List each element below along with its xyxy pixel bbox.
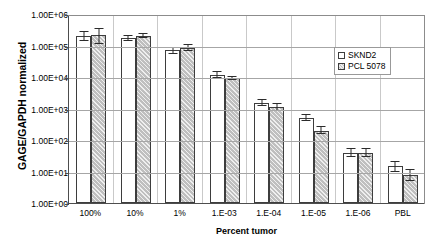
error-bar-cap-top — [406, 169, 415, 170]
error-bar-cap-top — [183, 44, 192, 45]
error-bar — [98, 29, 99, 44]
gridline — [69, 78, 425, 79]
x-axis-title: Percent tumor — [68, 226, 425, 236]
y-axis-tick — [65, 141, 69, 142]
bar-sknd2[interactable] — [76, 36, 91, 203]
x-axis-tick-label: PBL — [380, 208, 425, 224]
error-bar-cap-bottom — [228, 79, 237, 80]
error-bar-cap-top — [272, 103, 281, 104]
error-bar-cap-bottom — [406, 180, 415, 181]
y-axis-tick-label: 1.00E+02 — [20, 136, 68, 146]
y-axis-tick — [65, 204, 69, 205]
error-bar-cap-bottom — [257, 105, 266, 106]
x-axis-tick-label: 1.E-03 — [202, 208, 247, 224]
plot-frame-right — [424, 15, 425, 204]
x-axis-tick-label: 10% — [113, 208, 158, 224]
y-axis-tick — [65, 110, 69, 111]
error-bar-cap-bottom — [183, 50, 192, 51]
legend-label-sknd2: SKND2 — [348, 50, 376, 61]
y-axis-tick — [65, 173, 69, 174]
bar-sknd2[interactable] — [165, 50, 180, 203]
legend-swatch-icon-sknd2 — [338, 52, 345, 59]
error-bar-cap-top — [257, 99, 266, 100]
x-axis-tick-label: 1.E-06 — [336, 208, 381, 224]
x-axis-tick-label: 1% — [157, 208, 202, 224]
error-bar-cap-top — [139, 33, 148, 34]
y-axis-tick — [65, 47, 69, 48]
error-bar-cap-top — [317, 126, 326, 127]
y-axis-tick-label: 1.00E+04 — [20, 73, 68, 83]
error-bar-cap-bottom — [79, 40, 88, 41]
bar-sknd2[interactable] — [254, 103, 269, 203]
error-bar-cap-bottom — [317, 133, 326, 134]
error-bar-cap-bottom — [302, 120, 311, 121]
error-bar-cap-top — [79, 31, 88, 32]
legend-item-pcl5078: PCL 5078 — [338, 61, 386, 72]
bar-sknd2[interactable] — [210, 75, 225, 203]
error-bar-cap-top — [391, 161, 400, 162]
y-axis-tick-label: 1.00E+03 — [20, 105, 68, 115]
y-axis-tick-label: 1.00E+01 — [20, 168, 68, 178]
error-bar-cap-bottom — [139, 37, 148, 38]
bar-pcl-5078[interactable] — [180, 48, 195, 203]
bar-pcl-5078[interactable] — [358, 153, 373, 203]
error-bar-cap-bottom — [124, 40, 133, 41]
gridline — [69, 173, 425, 174]
y-axis-tick-label: 1.00E+06 — [20, 10, 68, 20]
bar-sknd2[interactable] — [299, 118, 314, 203]
error-bar-cap-top — [124, 35, 133, 36]
bar-pcl-5078[interactable] — [136, 36, 151, 203]
gridline — [69, 110, 425, 111]
legend-swatch-icon-pcl5078 — [338, 63, 345, 70]
error-bar-cap-bottom — [346, 156, 355, 157]
error-bar-cap-top — [346, 148, 355, 149]
error-bar-cap-top — [361, 148, 370, 149]
bar-chart: GAGE/GAPDH normalized 1.00E+061.00E+051.… — [0, 0, 437, 241]
legend-label-pcl5078: PCL 5078 — [348, 61, 386, 72]
error-bar-cap-bottom — [94, 43, 103, 44]
bar-pcl-5078[interactable] — [91, 35, 106, 203]
bar-sknd2[interactable] — [343, 153, 358, 203]
y-axis-tick-label: 1.00E+00 — [20, 199, 68, 209]
plot-frame-top — [68, 15, 425, 16]
bar-pcl-5078[interactable] — [269, 107, 284, 203]
legend-item-sknd2: SKND2 — [338, 50, 386, 61]
y-axis-tick-label: 1.00E+05 — [20, 42, 68, 52]
plot-area — [68, 15, 425, 204]
error-bar-cap-bottom — [361, 156, 370, 157]
legend: SKND2 PCL 5078 — [334, 47, 391, 75]
bar-sknd2[interactable] — [121, 38, 136, 203]
error-bar-cap-top — [302, 114, 311, 115]
y-axis-tick — [65, 78, 69, 79]
x-axis-tick-label: 1.E-05 — [291, 208, 336, 224]
error-bar-cap-top — [94, 28, 103, 29]
x-axis-tick-label: 100% — [68, 208, 113, 224]
gridline — [69, 141, 425, 142]
error-bar-cap-bottom — [391, 171, 400, 172]
error-bar-cap-top — [213, 71, 222, 72]
error-bar-cap-bottom — [168, 53, 177, 54]
error-bar-cap-top — [228, 76, 237, 77]
x-axis-tick-label: 1.E-04 — [247, 208, 292, 224]
x-axis-tick-labels: 100%10%1%1.E-031.E-041.E-051.E-06PBL — [68, 208, 425, 224]
y-axis-tick-labels: 1.00E+061.00E+051.00E+041.00E+031.00E+02… — [20, 0, 68, 241]
bar-sknd2[interactable] — [388, 166, 403, 203]
